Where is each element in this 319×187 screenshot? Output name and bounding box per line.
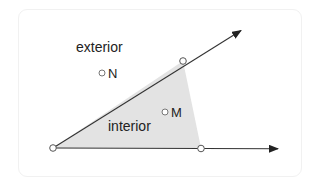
point-n-label: N [108,66,117,81]
point-m-marker [162,109,168,115]
point-n-marker [99,70,105,76]
interior-label: interior [108,118,151,134]
exterior-label: exterior [76,39,123,55]
lower-ray-point [198,145,205,152]
vertex-point [50,145,57,152]
upper-ray-point [180,58,187,65]
point-m-label: M [171,105,182,120]
angle-diagram: N M exterior interior [0,0,319,187]
lower-ray [53,148,278,149]
